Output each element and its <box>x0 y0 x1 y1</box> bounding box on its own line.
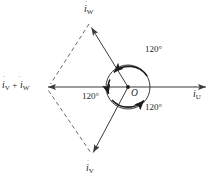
phasor-label-i-w: i̇W <box>84 4 93 16</box>
phasor-label-i-u: i̇U <box>193 89 201 101</box>
angle-label-left: 120° <box>82 92 99 101</box>
phasor-label-i-v: i̇V <box>86 163 94 175</box>
phasor-label-i-v-plus-i-w: i̇V + i̇W <box>2 80 29 92</box>
phasor-diagram-canvas: i_U) --> <box>0 0 219 186</box>
phasor-label-i-w-sub: W <box>87 8 94 16</box>
phasor-label-sum-sub1: V <box>5 84 10 92</box>
origin-point <box>126 85 130 89</box>
dashed-construction-group <box>49 24 92 153</box>
phasor-label-i-u-sub: U <box>196 93 201 101</box>
dashed-line-w-to-sum <box>51 24 90 84</box>
phasor-line-i-w <box>91 28 128 88</box>
phasor-label-sum-sub2: W <box>23 84 30 92</box>
angle-arc-upper-right <box>114 66 147 76</box>
angle-label-lower-right: 120° <box>145 103 162 112</box>
phasor-diagram-figure: i_U) --> i̇U <box>0 0 219 186</box>
phasor-label-i-v-sub: V <box>89 167 94 175</box>
angle-label-upper-right: 120° <box>145 45 162 54</box>
origin-label: O <box>131 89 138 99</box>
